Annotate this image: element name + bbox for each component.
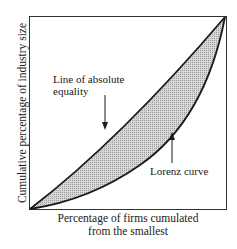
lorenz-curve — [30, 17, 225, 209]
y-axis-label: Cumulative percentage of industry size — [16, 18, 28, 208]
x-axis-label: Percentage of firms cumulated from the s… — [30, 212, 226, 238]
line-of-absolute-equality — [30, 17, 225, 209]
x-axis-label-line-1: Percentage of firms cumulated — [30, 212, 226, 225]
arrow-down-icon — [102, 95, 108, 130]
equality-line-label-2: equality — [53, 85, 88, 97]
plot-frame — [30, 17, 227, 210]
lorenz-curve-label: Lorenz curve — [150, 165, 208, 177]
shaded-inequality-area — [30, 17, 225, 209]
x-axis-label-line-2: from the smallest — [30, 225, 226, 238]
equality-line-label-1: Line of absolute — [53, 73, 124, 85]
